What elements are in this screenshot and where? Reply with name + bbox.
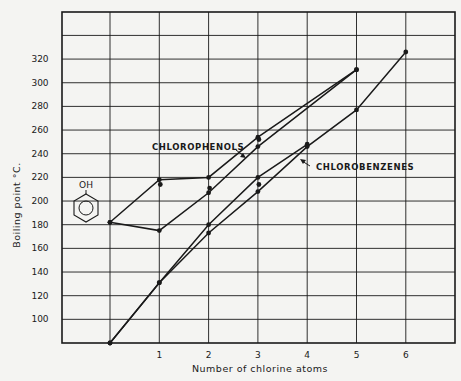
x-tick-label: 5 [354, 350, 360, 360]
x-axis-ticks: 123456 [156, 350, 408, 360]
x-tick-label: 3 [255, 350, 261, 360]
y-tick-label: 200 [31, 196, 48, 206]
oh-label: OH [79, 180, 93, 190]
data-point [206, 190, 211, 195]
data-point [256, 175, 261, 180]
data-point [354, 67, 359, 72]
x-tick-label: 2 [206, 350, 212, 360]
y-tick-label: 100 [31, 314, 48, 324]
data-point [305, 144, 310, 149]
y-tick-label: 220 [31, 172, 48, 182]
data-point [206, 175, 211, 180]
y-tick-label: 260 [31, 125, 48, 135]
y-tick-label: 320 [31, 54, 48, 64]
y-tick-label: 280 [31, 101, 48, 111]
y-tick-label: 300 [31, 78, 48, 88]
data-point [158, 182, 163, 187]
boiling-point-chart: 100120140160180200220240260280300320 123… [0, 0, 461, 381]
data-point [403, 50, 408, 55]
y-axis-ticks: 100120140160180200220240260280300320 [31, 54, 48, 324]
data-point [256, 189, 261, 194]
y-tick-label: 240 [31, 149, 48, 159]
y-axis-label: Boiling point °C. [11, 162, 22, 247]
data-point [206, 231, 211, 236]
data-point [354, 108, 359, 113]
data-point [157, 228, 162, 233]
data-point [257, 182, 262, 187]
data-point [108, 220, 113, 225]
chlorophenols-annotation: CHLOROPHENOLS [152, 142, 244, 152]
data-point [256, 144, 261, 149]
data-point [206, 222, 211, 227]
data-point [108, 341, 113, 346]
y-tick-label: 160 [31, 243, 48, 253]
data-point [257, 137, 262, 142]
x-tick-label: 1 [156, 350, 162, 360]
y-tick-label: 180 [31, 220, 48, 230]
y-tick-label: 140 [31, 267, 48, 277]
y-tick-label: 120 [31, 291, 48, 301]
data-point [207, 186, 212, 191]
x-tick-label: 4 [304, 350, 310, 360]
x-axis-label: Number of chlorine atoms [192, 363, 328, 374]
data-point [157, 280, 162, 285]
chlorobenzenes-annotation: CHLOROBENZENES [316, 162, 414, 172]
x-tick-label: 6 [403, 350, 409, 360]
data-point [157, 177, 162, 182]
